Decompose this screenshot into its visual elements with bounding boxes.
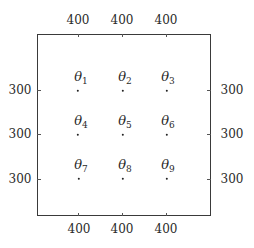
right-label-1: 300 xyxy=(221,84,244,96)
tick-top-1 xyxy=(78,34,79,37)
tick-bottom-1 xyxy=(78,213,79,216)
theta-label-9: θ9 xyxy=(161,157,175,174)
right-label-3: 300 xyxy=(221,173,244,185)
tick-left-1 xyxy=(37,90,41,91)
tick-bottom-2 xyxy=(122,213,123,216)
tick-right-2 xyxy=(207,134,211,135)
left-label-2: 300 xyxy=(9,128,32,140)
theta-label-3: θ3 xyxy=(161,69,175,86)
top-label-2: 400 xyxy=(111,14,134,26)
tick-right-1 xyxy=(207,90,211,91)
tick-left-3 xyxy=(37,179,41,180)
bottom-label-2: 400 xyxy=(111,223,134,235)
left-label-3: 300 xyxy=(9,173,32,185)
tick-bottom-3 xyxy=(166,213,167,216)
theta-label-1: θ1 xyxy=(74,69,88,86)
right-label-2: 300 xyxy=(221,128,244,140)
theta-label-7: θ7 xyxy=(74,157,88,174)
tick-top-3 xyxy=(166,34,167,37)
bottom-label-3: 400 xyxy=(155,223,178,235)
tick-top-2 xyxy=(122,34,123,37)
tick-right-3 xyxy=(207,179,211,180)
theta-label-8: θ8 xyxy=(118,157,132,174)
theta-label-4: θ4 xyxy=(74,113,88,130)
tick-left-2 xyxy=(37,134,41,135)
theta-label-2: θ2 xyxy=(118,69,132,86)
theta-label-5: θ5 xyxy=(118,113,132,130)
left-label-1: 300 xyxy=(9,84,32,96)
top-label-1: 400 xyxy=(67,14,90,26)
bottom-label-1: 400 xyxy=(68,223,91,235)
theta-label-6: θ6 xyxy=(161,113,175,130)
top-label-3: 400 xyxy=(155,14,178,26)
